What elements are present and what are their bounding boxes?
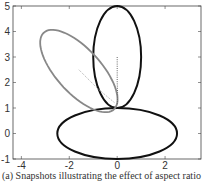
plot-frame bbox=[13, 6, 201, 159]
ellipse bbox=[57, 108, 177, 159]
y-tick-label: 3 bbox=[4, 52, 10, 63]
figure-caption: (a) Snapshots illustrating the effect of… bbox=[2, 170, 201, 181]
y-tick-label: 0 bbox=[4, 128, 10, 139]
y-tick-label: 1 bbox=[4, 103, 10, 114]
y-tick-label: 5 bbox=[4, 1, 10, 12]
ellipse-tilted bbox=[40, 30, 117, 112]
y-tick-label: 2 bbox=[4, 77, 10, 88]
y-tick-label: 4 bbox=[4, 26, 10, 37]
y-tick-label: -1 bbox=[1, 154, 10, 165]
chart: -4-202-1012345 bbox=[0, 0, 206, 183]
